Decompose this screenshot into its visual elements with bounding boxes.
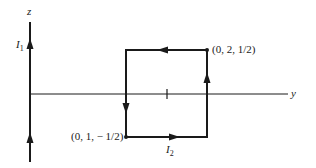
loop-arrow-left-icon bbox=[157, 47, 168, 54]
diagram: z y I1 I2 (0, 2, 1/2) (0, 1, − 1/2) bbox=[0, 0, 316, 168]
loop-current-label: I2 bbox=[166, 144, 174, 158]
y-axis-label: y bbox=[291, 88, 296, 99]
corner-point-top-right bbox=[205, 48, 209, 52]
z-axis-label: z bbox=[27, 6, 31, 17]
loop-arrow-up-icon bbox=[204, 72, 211, 83]
corner-point-bottom-left bbox=[124, 135, 128, 139]
corner-label-bottom-left: (0, 1, − 1/2) bbox=[71, 131, 123, 142]
wire-current-label: I1 bbox=[16, 39, 24, 53]
loop-arrow-down-icon bbox=[123, 103, 130, 114]
loop-arrow-right-icon bbox=[169, 134, 180, 141]
corner-label-top-right: (0, 2, 1/2) bbox=[212, 44, 255, 55]
loop-current-subscript: 2 bbox=[170, 149, 174, 158]
wire-arrow-up-top-icon bbox=[27, 38, 34, 49]
wire-arrow-up-bottom-icon bbox=[27, 132, 34, 143]
wire-current-subscript: 1 bbox=[20, 44, 24, 53]
diagram-canvas bbox=[0, 0, 316, 168]
